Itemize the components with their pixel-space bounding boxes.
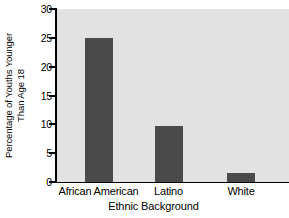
bar-white	[227, 173, 255, 182]
y-axis-title: Percentage of Youths Younger Than Age 18	[0, 0, 30, 190]
y-axis-title-line-2: Than Age 18	[15, 32, 27, 157]
y-axis-title-line-1: Percentage of Youths Younger	[4, 32, 16, 157]
y-axis-tick-labels: 051015202530	[30, 0, 52, 218]
bar-african-american	[85, 38, 113, 182]
bar-chart-figure: Percentage of Youths Younger Than Age 18…	[0, 0, 289, 218]
plot-area	[57, 9, 289, 182]
x-axis-tick-label: African American	[59, 185, 139, 198]
x-axis-tick-label: White	[227, 185, 254, 198]
x-axis-tick-label: Latino	[154, 185, 183, 198]
x-axis-title: Ethnic Background	[0, 200, 289, 213]
bar-latino	[155, 126, 183, 183]
